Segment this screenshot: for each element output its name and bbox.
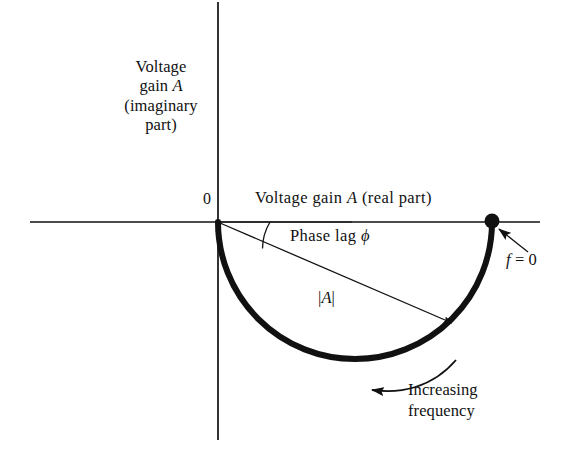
frequency-symbol: f	[506, 250, 511, 269]
nyquist-plot-canvas	[0, 0, 571, 469]
f-zero-marker-dot	[485, 214, 500, 229]
real-axis-symbol: A	[347, 188, 357, 207]
origin-label: 0	[203, 190, 211, 209]
f-zero-label: f = 0	[506, 250, 537, 269]
real-axis-label: Voltage gain A (real part)	[255, 188, 432, 207]
phase-lag-label: Phase lag ϕ	[290, 226, 370, 245]
nyquist-plot-figure: Voltagegain A(imaginarypart) Voltage gai…	[0, 0, 571, 469]
phi-symbol: ϕ	[361, 226, 370, 245]
imaginary-axis-symbol: A	[172, 76, 182, 95]
imaginary-axis-label: Voltagegain A(imaginarypart)	[113, 57, 209, 135]
increasing-frequency-label: Increasingfrequency	[408, 380, 478, 421]
f-zero-leader-arrow	[499, 229, 528, 252]
magnitude-label: |A|	[318, 288, 335, 307]
magnitude-symbol: A	[321, 288, 331, 307]
